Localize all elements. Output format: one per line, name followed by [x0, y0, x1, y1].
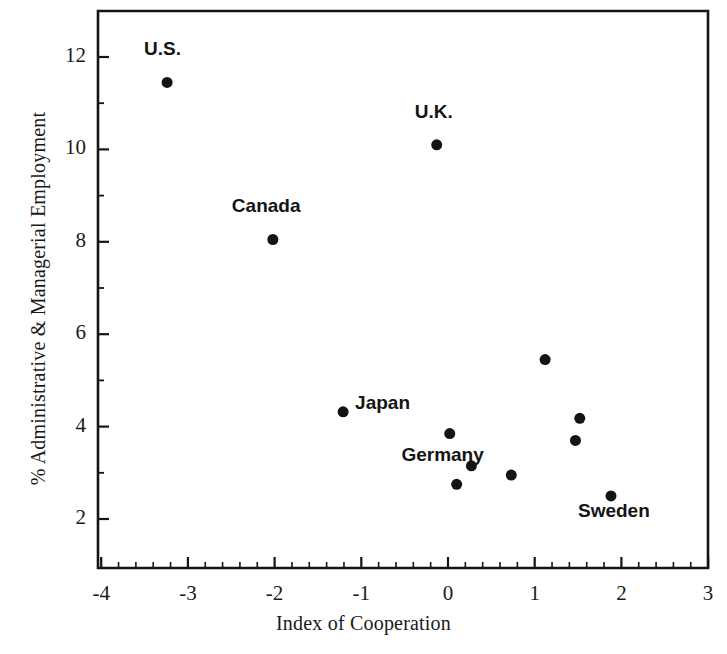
x-axis-title: Index of Cooperation — [0, 612, 727, 635]
x-tick-label: 2 — [601, 581, 641, 606]
point-label: Canada — [232, 195, 301, 217]
x-tick-label: 1 — [515, 581, 555, 606]
data-point — [431, 139, 442, 150]
y-axis-title: % Administrative & Managerial Employment — [27, 9, 50, 589]
point-label: U.S. — [144, 38, 181, 60]
point-label: U.K. — [415, 101, 453, 123]
data-point — [162, 77, 173, 88]
data-point — [540, 354, 551, 365]
point-label: Japan — [355, 392, 410, 414]
x-tick-label: -4 — [81, 581, 121, 606]
scatter-chart: -4-3-2-10123 24681012 U.S.U.K.CanadaJapa… — [0, 0, 727, 654]
x-tick-label: 3 — [688, 581, 727, 606]
plot-frame — [98, 11, 708, 568]
x-tick-label: -1 — [341, 581, 381, 606]
y-tick-label: 10 — [46, 135, 86, 160]
data-point — [267, 234, 278, 245]
plot-box — [98, 11, 708, 568]
data-point — [338, 406, 349, 417]
y-tick-label: 2 — [46, 505, 86, 530]
data-point — [574, 413, 585, 424]
y-tick-label: 4 — [46, 413, 86, 438]
data-point — [444, 428, 455, 439]
y-tick-label: 8 — [46, 228, 86, 253]
x-tick-label: -3 — [168, 581, 208, 606]
data-point — [570, 435, 581, 446]
point-label: Germany — [401, 444, 483, 466]
x-tick-label: -2 — [255, 581, 295, 606]
data-point — [451, 479, 462, 490]
y-tick-label: 12 — [46, 43, 86, 68]
axis-ticks — [98, 57, 708, 568]
point-label: Sweden — [578, 500, 650, 522]
plot-canvas — [0, 0, 727, 654]
data-points — [162, 77, 617, 501]
data-point — [506, 470, 517, 481]
x-tick-label: 0 — [428, 581, 468, 606]
y-tick-label: 6 — [46, 320, 86, 345]
